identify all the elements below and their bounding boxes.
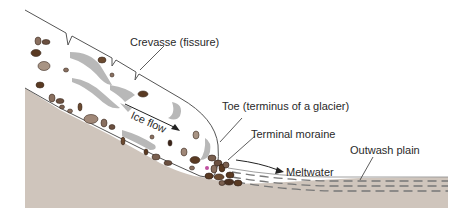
label-crevasse: Crevasse (fissure): [130, 36, 219, 48]
glacier-diagram: Crevasse (fissure) Ice flow Toe (terminu…: [0, 0, 468, 215]
label-terminal-moraine: Terminal moraine: [251, 128, 335, 140]
label-outwash-plain: Outwash plain: [350, 144, 420, 156]
label-toe: Toe (terminus of a glacier): [222, 100, 349, 112]
label-meltwater: Meltwater: [286, 166, 334, 178]
meltwater-arrow: [236, 160, 284, 174]
